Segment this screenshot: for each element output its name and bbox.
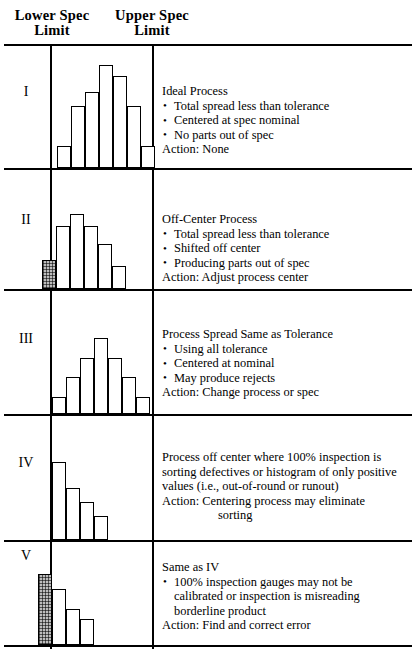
histogram-bar bbox=[85, 92, 99, 168]
list-item-continuation-1: calibrated or inspection is misreading bbox=[162, 589, 412, 604]
row-title: Same as IV bbox=[162, 560, 412, 575]
histogram-bar bbox=[52, 462, 66, 540]
histogram-bar bbox=[84, 226, 98, 289]
row-title: Off-Center Process bbox=[162, 212, 412, 227]
row-action-continuation: sorting bbox=[162, 508, 412, 523]
list-item: No parts out of spec bbox=[162, 128, 412, 143]
row-bullet-list: Total spread less than tolerance Centere… bbox=[162, 99, 412, 143]
row-action: Action: None bbox=[162, 142, 412, 157]
histogram-row-4 bbox=[0, 414, 160, 540]
table-row: IV Process off center where 100% inspect… bbox=[0, 414, 416, 540]
row-description: Off-Center Process Total spread less tha… bbox=[162, 212, 412, 285]
histogram-bar bbox=[122, 377, 136, 414]
row-action: Action: Adjust process center bbox=[162, 270, 412, 285]
histogram-bar bbox=[112, 266, 126, 289]
row-description: Same as IV 100% inspection gauges may no… bbox=[162, 560, 412, 633]
histogram-bar bbox=[94, 338, 108, 414]
lower-spec-limit-label: Lower Spec Limit bbox=[0, 8, 104, 38]
spec-limit-headers: Lower Spec Limit Upper Spec Limit bbox=[0, 0, 416, 45]
histogram-bar bbox=[70, 214, 84, 289]
histogram-bar bbox=[136, 397, 150, 414]
histogram-bar bbox=[66, 609, 80, 645]
histogram-bar bbox=[141, 146, 155, 168]
table-row: III Process Spread Same as Tolerance Usi… bbox=[0, 289, 416, 414]
table-row: II Off-Center Process Total spread less … bbox=[0, 168, 416, 289]
histogram-row-2 bbox=[0, 168, 160, 289]
list-item: May produce rejects bbox=[162, 371, 412, 386]
upper-spec-limit-line1: Upper Spec bbox=[115, 7, 189, 23]
histogram-bar bbox=[127, 106, 141, 168]
histogram-bar bbox=[80, 358, 94, 414]
row-action: Action: Find and correct error bbox=[162, 618, 412, 633]
row-title: Ideal Process bbox=[162, 84, 412, 99]
histogram-interpretation-chart: Lower Spec Limit Upper Spec Limit I Idea… bbox=[0, 0, 416, 651]
upper-spec-limit-line2: Limit bbox=[134, 22, 170, 38]
histogram-row-3 bbox=[0, 289, 160, 414]
histogram-bar bbox=[80, 619, 94, 645]
row-title-line3: values (i.e., out-of-round or runout) bbox=[162, 479, 412, 494]
list-item: Centered at spec nominal bbox=[162, 113, 412, 128]
lower-spec-limit-line2: Limit bbox=[34, 22, 70, 38]
histogram-bar bbox=[56, 226, 70, 289]
list-item: 100% inspection gauges may not be bbox=[162, 575, 412, 590]
histogram-bar bbox=[57, 146, 71, 168]
row-action: Action: Change process or spec bbox=[162, 385, 412, 400]
histogram-bar bbox=[94, 516, 108, 540]
row-bullet-list: 100% inspection gauges may not be bbox=[162, 575, 412, 590]
histogram-bar bbox=[108, 358, 122, 414]
table-row: I Ideal Process Total spread less than t… bbox=[0, 44, 416, 168]
table-rule-bottom bbox=[4, 645, 412, 647]
list-item: Shifted off center bbox=[162, 241, 412, 256]
histogram-bar bbox=[52, 397, 66, 414]
histogram-bar bbox=[42, 260, 56, 289]
row-bullet-list: Total spread less than tolerance Shifted… bbox=[162, 227, 412, 271]
histogram-bar bbox=[98, 244, 112, 289]
table-row: V Same as IV 100% inspection gauges may … bbox=[0, 540, 416, 645]
row-title-line2: sorting defectives or histogram of only … bbox=[162, 465, 412, 480]
row-description: Process off center where 100% inspection… bbox=[162, 450, 412, 523]
histogram-bar bbox=[52, 589, 66, 645]
histogram-bar bbox=[80, 502, 94, 540]
list-item: Centered at nominal bbox=[162, 356, 412, 371]
row-title: Process Spread Same as Tolerance bbox=[162, 327, 412, 342]
list-item: Total spread less than tolerance bbox=[162, 99, 412, 114]
row-action: Action: Centering process may eliminate bbox=[162, 494, 412, 509]
list-item: Total spread less than tolerance bbox=[162, 227, 412, 242]
upper-spec-limit-label: Upper Spec Limit bbox=[100, 8, 204, 38]
list-item: Producing parts out of spec bbox=[162, 256, 412, 271]
histogram-bar bbox=[113, 76, 127, 168]
row-description: Process Spread Same as Tolerance Using a… bbox=[162, 327, 412, 400]
histogram-row-1 bbox=[0, 44, 160, 168]
list-item: Using all tolerance bbox=[162, 342, 412, 357]
histogram-row-5 bbox=[0, 540, 160, 645]
row-description: Ideal Process Total spread less than tol… bbox=[162, 84, 412, 157]
row-title: Process off center where 100% inspection… bbox=[162, 450, 412, 465]
lower-spec-limit-line1: Lower Spec bbox=[15, 7, 90, 23]
histogram-bar bbox=[38, 574, 52, 645]
histogram-bar bbox=[99, 65, 113, 168]
row-bullet-list: Using all tolerance Centered at nominal … bbox=[162, 342, 412, 386]
histogram-bar bbox=[71, 106, 85, 168]
histogram-bar bbox=[66, 377, 80, 414]
list-item-continuation-2: borderline product bbox=[162, 604, 412, 619]
histogram-bar bbox=[66, 488, 80, 540]
